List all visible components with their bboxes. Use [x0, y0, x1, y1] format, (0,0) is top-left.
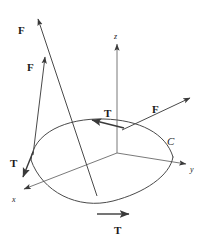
curve-C-far-arc — [31, 119, 173, 160]
z-axis-label: z — [114, 33, 117, 41]
tangent-vector-top-label: T — [104, 108, 111, 119]
force-vector-upper-left-short-label: F — [27, 62, 34, 73]
curve-C-near-arc — [31, 157, 173, 203]
force-vector-upper-left-long-shaft — [38, 19, 97, 196]
tangent-vector-left-shaft — [23, 152, 33, 177]
curve-C-path — [31, 119, 173, 203]
force-vector-upper-left-long-label: F — [18, 25, 25, 36]
tangent-vector-bottom-label: T — [114, 225, 121, 236]
x-axis-line — [24, 153, 117, 189]
force-vector-right-label: F — [152, 104, 159, 115]
y-axis-line — [117, 153, 186, 164]
x-axis-label: x — [12, 196, 16, 204]
tangent-vector-top-shaft — [92, 120, 124, 128]
figure-canvas — [0, 0, 205, 241]
y-axis-label: y — [190, 166, 194, 174]
curve-C-label: C — [167, 136, 174, 147]
tangent-vector-left-label: T — [10, 158, 17, 169]
vector-field-figure: F F F T T T z y x C — [0, 0, 205, 241]
